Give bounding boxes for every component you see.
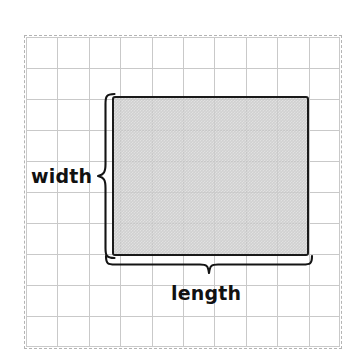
length-brace-icon bbox=[104, 254, 314, 278]
shaded-rectangle bbox=[112, 96, 309, 256]
width-label: width bbox=[31, 165, 92, 187]
length-label: length bbox=[171, 282, 241, 304]
diagram-canvas: width length bbox=[0, 0, 354, 363]
rectangle-fill-texture bbox=[114, 98, 307, 254]
width-brace-icon bbox=[96, 92, 116, 260]
